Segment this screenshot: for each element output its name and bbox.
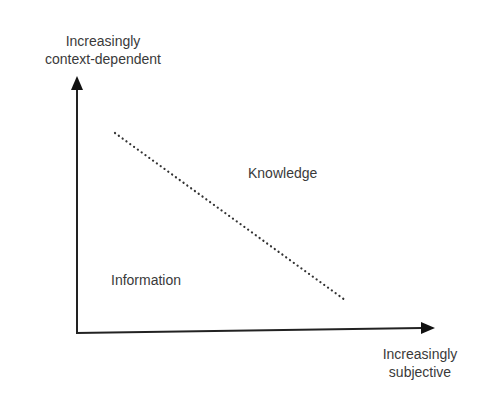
information-region-label: Information [111,271,181,289]
y-axis [71,76,83,333]
y-axis-arrowhead-icon [71,76,83,90]
y-axis-label-line1: Increasingly [18,32,188,50]
x-axis-label: Increasingly subjective [360,345,480,381]
x-axis-label-line1: Increasingly [360,345,480,363]
x-axis-label-line2: subjective [360,363,480,381]
knowledge-region-label: Knowledge [248,164,317,182]
y-axis-label: Increasingly context-dependent [18,32,188,68]
x-axis [76,322,435,334]
y-axis-label-line2: context-dependent [18,50,188,68]
x-axis-arrowhead-icon [421,322,435,334]
